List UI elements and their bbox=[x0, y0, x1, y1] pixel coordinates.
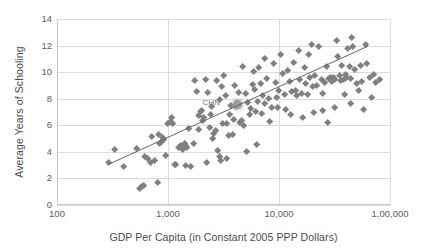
y-axis-tick-label: 8 bbox=[22, 94, 52, 104]
x-axis-tick-label: 1,000 bbox=[128, 208, 208, 219]
x-axis-title: GDP Per Capita (in Constant 2005 PPP Dol… bbox=[57, 231, 390, 243]
y-axis-tick-label: 10 bbox=[22, 67, 52, 77]
gridline-horizontal bbox=[57, 205, 390, 206]
plot-area: CHN bbox=[57, 19, 390, 205]
scatter-chart: Average Years of Schooling 02468101214 C… bbox=[0, 0, 430, 251]
y-axis-tick-label: 4 bbox=[22, 147, 52, 157]
gridline-vertical bbox=[390, 19, 391, 205]
trend-line bbox=[57, 19, 390, 205]
x-axis-tick-label: 10,000 bbox=[239, 208, 319, 219]
y-axis-tick-label: 6 bbox=[22, 120, 52, 130]
y-axis-tick-label: 12 bbox=[22, 41, 52, 51]
y-axis-tick-label: 14 bbox=[22, 14, 52, 24]
x-axis-tick-label: 1,00,000 bbox=[350, 208, 430, 219]
y-axis-tick-label: 2 bbox=[22, 173, 52, 183]
x-axis-tick-label: 100 bbox=[17, 208, 97, 219]
